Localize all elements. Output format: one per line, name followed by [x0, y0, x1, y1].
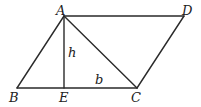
point-label-c: C: [131, 90, 141, 105]
point-label-e: E: [58, 90, 69, 105]
height-label-h: h: [68, 45, 76, 60]
base-label-b: b: [95, 72, 103, 87]
point-label-a: A: [55, 3, 65, 18]
point-label-d: D: [181, 3, 193, 18]
segment-ab: [17, 16, 64, 88]
point-label-b: B: [8, 90, 19, 105]
segment-cd: [137, 16, 184, 88]
parallelogram-diagram: A D B E C h b: [0, 0, 201, 107]
